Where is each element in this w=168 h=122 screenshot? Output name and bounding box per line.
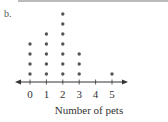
x-tick-label: 3: [76, 88, 82, 100]
data-dot: [28, 72, 31, 75]
data-dot: [61, 52, 64, 55]
data-dot: [45, 62, 48, 65]
data-dot: [78, 72, 81, 75]
data-dot: [61, 32, 64, 35]
x-tick-label: 4: [93, 88, 99, 100]
left-arrow-icon: [15, 80, 21, 85]
data-dot: [61, 62, 64, 65]
data-dot: [110, 72, 113, 75]
data-dot: [61, 12, 64, 15]
x-tick-label: 2: [60, 88, 66, 100]
data-dot: [45, 72, 48, 75]
data-dot: [61, 22, 64, 25]
data-dot: [45, 32, 48, 35]
data-dot: [45, 52, 48, 55]
data-dot: [78, 62, 81, 65]
x-axis-title: Number of pets: [0, 104, 168, 116]
data-dot: [78, 52, 81, 55]
x-tick-label: 5: [109, 88, 115, 100]
data-dot: [61, 72, 64, 75]
x-tick-label: 0: [27, 88, 33, 100]
right-arrow-icon: [122, 80, 128, 85]
data-dot: [45, 42, 48, 45]
x-tick-label: 1: [44, 88, 50, 100]
data-dot: [28, 52, 31, 55]
data-dot: [61, 42, 64, 45]
data-dot: [28, 62, 31, 65]
data-dot: [28, 42, 31, 45]
